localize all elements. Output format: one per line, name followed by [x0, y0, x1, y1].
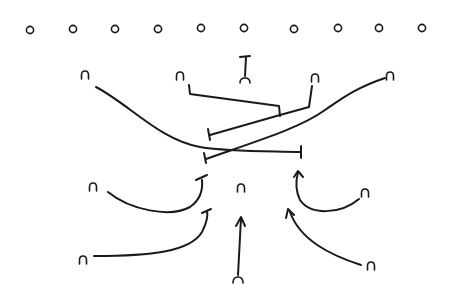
route-far-right-cross [206, 78, 385, 159]
defense-player-arch-icon [90, 183, 97, 191]
football-play-diagram [0, 0, 451, 304]
route-db-left [108, 180, 202, 212]
offense-player-circle-icon [197, 24, 204, 31]
route-right-lb [210, 86, 312, 135]
block-bar-icon [240, 56, 250, 57]
defense-player-arch-icon [387, 72, 394, 80]
offense-player-circle-icon [418, 24, 425, 31]
route-far-left-cross [96, 87, 301, 152]
fork-symbol-icon [240, 78, 250, 83]
route-safety-up [238, 218, 241, 275]
offense-player-circle-icon [334, 24, 341, 31]
defense-player-arch-icon [82, 71, 89, 79]
offense-player-circle-icon [240, 24, 247, 31]
defense-player-arch-icon [312, 74, 319, 82]
defense-player-arch-icon [368, 262, 375, 270]
route-db-right [296, 172, 359, 211]
block-bar-icon [204, 153, 206, 163]
defense-player-arch-icon [177, 72, 184, 80]
offense-player-circle-icon [154, 25, 161, 32]
route-corner-right [290, 212, 361, 265]
play-canvas [0, 0, 451, 304]
defense-player-arch-icon [238, 184, 245, 192]
route-center-stem [245, 57, 246, 76]
offense-player-circle-icon [290, 25, 297, 32]
block-bar-icon [208, 129, 210, 140]
offense-player-circle-icon [111, 25, 118, 32]
route-corner-left [94, 211, 207, 256]
fork-symbol-icon [233, 277, 243, 283]
offense-player-circle-icon [26, 26, 33, 33]
defense-player-arch-icon [80, 256, 87, 264]
route-left-lb [189, 85, 280, 116]
offense-line [26, 24, 425, 33]
offense-player-circle-icon [375, 24, 382, 31]
offense-player-circle-icon [69, 25, 76, 32]
defense-player-arch-icon [362, 189, 369, 197]
routes [94, 56, 385, 275]
